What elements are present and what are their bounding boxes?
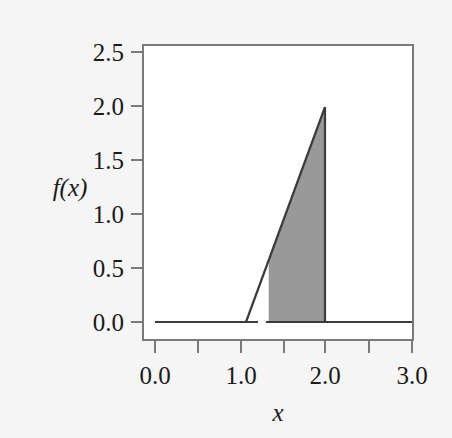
y-tick-label-3: 1.5 xyxy=(93,147,124,174)
x-tick-label-0: 0.0 xyxy=(139,362,170,389)
y-tick-label-1: 0.5 xyxy=(93,255,124,282)
y-tick-label-5: 2.5 xyxy=(93,39,124,66)
x-axis-title: x xyxy=(271,399,283,426)
y-tick-label-4: 2.0 xyxy=(93,93,124,120)
chart-figure: 0.0 0.5 1.0 1.5 2.0 2.5 0.0 1.0 2.0 3.0 … xyxy=(0,0,452,438)
y-axis-title: f(x) xyxy=(53,174,88,202)
x-tick-label-2: 2.0 xyxy=(309,362,340,389)
y-tick-label-0: 0.0 xyxy=(93,309,124,336)
y-tick-label-2: 1.0 xyxy=(93,201,124,228)
x-tick-label-1: 1.0 xyxy=(225,362,256,389)
x-tick-label-3: 3.0 xyxy=(396,362,427,389)
density-plot-svg: 0.0 0.5 1.0 1.5 2.0 2.5 0.0 1.0 2.0 3.0 … xyxy=(0,0,452,438)
